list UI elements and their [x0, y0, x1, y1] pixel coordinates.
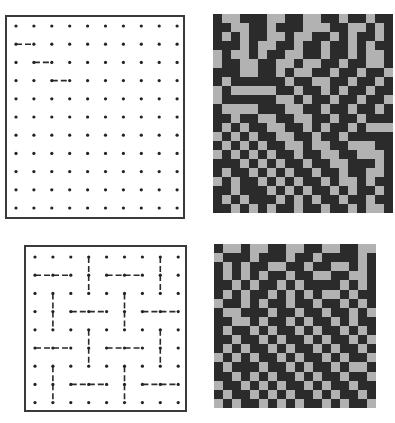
maze-cell — [249, 68, 258, 77]
grid-dot — [158, 134, 161, 137]
maze-cell — [249, 159, 258, 168]
maze-cell — [357, 168, 366, 177]
maze-cell — [214, 271, 223, 280]
maze-cell — [285, 132, 294, 141]
grid-dot — [51, 328, 54, 331]
grid-dot — [87, 346, 90, 349]
maze-cell — [348, 59, 357, 68]
maze-cell — [294, 77, 303, 86]
maze-cell — [276, 95, 285, 104]
maze-cell — [249, 114, 258, 123]
maze-cell — [358, 344, 367, 353]
maze-cell — [250, 253, 259, 262]
maze-cell — [240, 50, 249, 59]
maze-cell — [349, 253, 358, 262]
maze-cell — [339, 23, 348, 32]
maze-cell — [268, 244, 277, 253]
maze-cell — [286, 244, 295, 253]
maze-cell — [366, 141, 375, 150]
maze-cell — [358, 262, 367, 271]
grid-dot — [176, 61, 179, 64]
maze-cell — [304, 299, 313, 308]
maze-cell — [232, 280, 241, 289]
grid-dot — [32, 79, 35, 82]
maze-cell — [267, 123, 276, 132]
grid-dot — [14, 152, 17, 155]
maze-cell — [357, 159, 366, 168]
maze-cell — [313, 372, 322, 381]
maze-cell — [349, 362, 358, 371]
maze-cell — [268, 381, 277, 390]
maze-cell — [312, 68, 321, 77]
maze-cell — [285, 32, 294, 41]
grid-dot — [69, 274, 72, 277]
maze-cell — [259, 399, 268, 408]
maze-cell — [313, 353, 322, 362]
maze-cell — [222, 141, 231, 150]
grid-dot — [68, 79, 71, 82]
maze-cell — [249, 59, 258, 68]
maze-cell — [241, 290, 250, 299]
maze-cell — [304, 253, 313, 262]
maze-cell — [330, 132, 339, 141]
maze-cell — [348, 32, 357, 41]
maze-cell — [268, 372, 277, 381]
maze-cell — [249, 23, 258, 32]
maze-cell — [375, 195, 384, 204]
maze-cell — [303, 14, 312, 23]
maze-cell — [366, 77, 375, 86]
grid-dot — [105, 274, 108, 277]
maze-cell — [214, 326, 223, 335]
maze-cell — [357, 104, 366, 113]
grid-dot — [177, 346, 180, 349]
maze-cell — [240, 32, 249, 41]
maze-cell — [240, 23, 249, 32]
maze-cell — [276, 104, 285, 113]
maze-cell — [312, 177, 321, 186]
grid-dot — [14, 188, 17, 191]
maze-cell — [259, 290, 268, 299]
maze-cell — [267, 195, 276, 204]
maze-cell — [276, 177, 285, 186]
dot-grid-panel-top-left — [5, 15, 185, 219]
maze-cell — [348, 41, 357, 50]
maze-cell — [375, 141, 384, 150]
maze-cell — [258, 32, 267, 41]
maze-cell — [304, 290, 313, 299]
maze-cell — [259, 317, 268, 326]
maze-cell — [249, 77, 258, 86]
grid-dot — [104, 152, 107, 155]
maze-cell — [339, 177, 348, 186]
maze-cell — [223, 290, 232, 299]
maze-cell — [286, 271, 295, 280]
maze-cell — [223, 244, 232, 253]
maze-cell — [375, 114, 384, 123]
maze-cell — [303, 195, 312, 204]
maze-cell — [268, 390, 277, 399]
grid-dot — [50, 170, 53, 173]
maze-cell — [232, 262, 241, 271]
maze-cell — [213, 114, 222, 123]
maze-cell — [348, 204, 357, 213]
maze-cell — [375, 132, 384, 141]
maze-cell — [339, 159, 348, 168]
maze-cell — [340, 399, 349, 408]
maze-cell — [375, 59, 384, 68]
maze-cell — [312, 32, 321, 41]
maze-cell — [276, 68, 285, 77]
maze-cell — [321, 168, 330, 177]
grid-dot — [86, 188, 89, 191]
maze-cell — [258, 195, 267, 204]
maze-cell — [357, 150, 366, 159]
grid-dot — [105, 346, 108, 349]
grid-dot — [68, 134, 71, 137]
maze-cell — [214, 317, 223, 326]
maze-cell — [214, 308, 223, 317]
maze-cell — [258, 77, 267, 86]
maze-cell — [304, 271, 313, 280]
maze-cell — [366, 23, 375, 32]
maze-cell — [231, 168, 240, 177]
maze-cell — [358, 317, 367, 326]
maze-cell — [285, 195, 294, 204]
maze-cell — [286, 372, 295, 381]
